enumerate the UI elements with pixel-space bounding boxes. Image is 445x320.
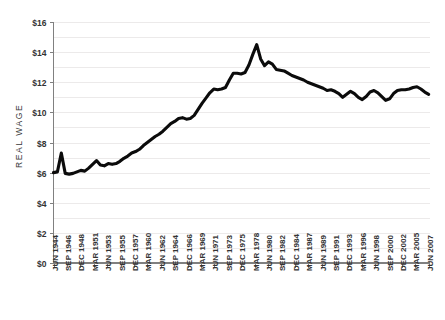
x-axis-tick-label: JUN 1944 [51,234,60,271]
x-axis-tick-label: JUN 1980 [265,234,274,271]
gridlines-group [54,23,431,264]
x-axis-tick-label: MAR 1969 [198,232,207,271]
x-axis-tick-label: JUN 1989 [319,234,328,271]
x-axis-tick-label: SEP 1955 [118,235,127,271]
x-axis-tick-label: DEC 1957 [131,234,140,271]
x-axis-tick-label: SEP 1982 [278,235,287,271]
real-wage-line [54,45,429,175]
y-axis-tick-label: $14 [32,48,46,58]
y-axis-tick-label: $2 [37,229,47,239]
x-axis-tick-label: MAR 1951 [91,232,100,271]
x-axis-tick-label: DEC 1984 [292,234,301,271]
x-axis-tick-label: MAR 1987 [305,232,314,271]
y-axis-tick-label: $6 [37,169,47,179]
x-axis-tick-label: SEP 2000 [386,235,395,271]
y-axis-tick-label: $8 [37,139,47,149]
y-axis-tick-label: $0 [37,259,47,269]
x-axis-tick-label: SEP 1946 [64,235,73,271]
y-axis-tick-label: $4 [37,199,47,209]
y-axis-tick-label: $10 [32,108,46,118]
x-axis-tick-label: DEC 2002 [399,234,408,271]
x-axis-tick-label: DEC 1975 [238,234,247,271]
y-axis-tick-label: $12 [32,78,46,88]
x-axis-tick-label: DEC 1993 [345,234,354,271]
x-axis-tick-label: SEP 1964 [171,235,180,271]
x-axis-tick-label: DEC 1966 [185,234,194,271]
x-axis-tick-label: SEP 1973 [225,235,234,271]
x-axis-tick-label: JUN 1998 [372,234,381,271]
y-axis-tick-label: $16 [32,18,46,28]
x-axis-tick-label: MAR 2005 [412,232,421,271]
x-axis-tick-label: JUN 2007 [426,234,435,271]
x-axis-tick-label: JUN 1971 [211,234,220,271]
real-wage-chart: $0$2$4$6$8$10$12$14$16 JUN 1944SEP 1946D… [0,0,445,320]
x-axis-tick-label: JUN 1953 [104,234,113,271]
x-axis-tick-label: JUN 1962 [158,234,167,271]
y-axis-title: REAL WAGE [14,104,24,168]
x-axis-tick-label: SEP 1991 [332,235,341,271]
y-axis-ticks-group: $0$2$4$6$8$10$12$14$16 [32,18,53,269]
x-axis-tick-label: MAR 1978 [252,232,261,271]
x-axis-tick-label: MAR 1960 [144,232,153,271]
chart-canvas: $0$2$4$6$8$10$12$14$16 JUN 1944SEP 1946D… [0,0,445,320]
x-axis-tick-label: DEC 1948 [77,234,86,271]
x-axis-tick-label: MAR 1996 [359,232,368,271]
x-axis-ticks-group: JUN 1944SEP 1946DEC 1948MAR 1951JUN 1953… [51,232,435,271]
